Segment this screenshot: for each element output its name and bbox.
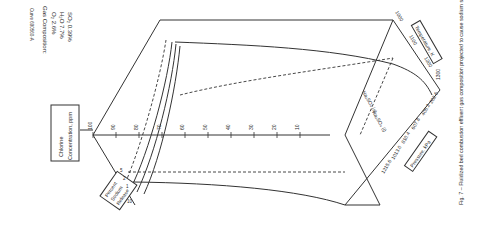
chlorine-tick: 50 xyxy=(202,124,208,130)
chlorine-tick: 100 xyxy=(87,121,93,130)
chlorine-tick: 90 xyxy=(110,124,116,130)
gas-composition-title: Gas Composition: xyxy=(42,6,48,54)
temperature-tick: 1000 xyxy=(394,10,405,23)
pressure-tick: 1013.0 xyxy=(390,144,403,160)
doc-id-text: Curve 690560-A xyxy=(29,8,34,41)
figure-caption: Fig. 7 – Fluidized bed combustion efflue… xyxy=(458,0,464,205)
caption-text: Fig. 7 – Fluidized bed combustion efflue… xyxy=(458,0,464,205)
chlorine-tick: 80 xyxy=(133,124,139,130)
gas-so2: SO₂ 0.39% xyxy=(67,12,73,42)
doc-id: Curve 690560-A xyxy=(29,8,34,41)
chlorine-tick: 40 xyxy=(225,124,231,130)
sodium-value: 5 xyxy=(120,168,123,173)
gas-h2o-text: H₂O 7.7% xyxy=(59,12,65,39)
chlorine-tick: 60 xyxy=(179,124,185,130)
chlorine-tick: 10 xyxy=(294,124,300,130)
gas-o2: O₂ 2.6% xyxy=(51,12,57,35)
pressure-tick: 405.2 xyxy=(420,102,432,116)
pressure-tick: 810.4 xyxy=(400,130,412,144)
diagram-canvas: Curve 690560-A Gas Composition: O₂ 2.6% … xyxy=(0,0,479,233)
gas-h2o: H₂O 7.7% xyxy=(59,12,65,39)
chlorine-label-1: Chlorine xyxy=(58,137,64,157)
gas-so2-text: SO₂ 0.39% xyxy=(67,12,73,42)
temperature-tick: 1300 xyxy=(435,69,441,80)
temperature-axis: 1000 1100 1200 1300 Temperature, K xyxy=(394,10,442,81)
chlorine-tick: 30 xyxy=(248,124,254,130)
chlorine-label-2: Concentration, ppm xyxy=(67,112,73,160)
chlorine-label-box: Chlorine Concentration, ppm xyxy=(51,105,93,161)
sodium-release-box: Percent Sodium Release xyxy=(100,171,137,209)
phase-label-liquid: Na₂SO₄ (l) xyxy=(371,110,388,134)
phase-liquid-text: Na₂SO₄ (l) xyxy=(371,110,388,134)
pressure-label-box: Pressure, kPa xyxy=(405,131,437,171)
pressure-axis: 202.6 405.2 607.8 810.4 1013.0 1215.6 Pr… xyxy=(380,90,440,174)
diagram-frame xyxy=(93,20,440,205)
pressure-tick: 607.8 xyxy=(410,116,422,130)
gas-composition: Gas Composition: xyxy=(42,6,48,54)
chlorine-tick: 20 xyxy=(271,124,277,130)
sodium-value: 10 xyxy=(127,199,133,204)
sodium-release-curves xyxy=(124,40,432,205)
gas-o2-text: O₂ 2.6% xyxy=(51,12,57,35)
chlorine-axis: 100 90 80 70 60 50 40 30 20 10 xyxy=(87,121,330,138)
